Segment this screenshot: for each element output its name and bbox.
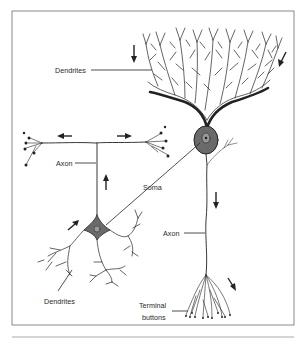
arrow-left-icon	[57, 133, 72, 139]
arrow-down-icon	[213, 192, 219, 209]
labels: Dendrites Axon Soma Axon Dendrites Termi…	[44, 66, 205, 322]
figure-frame	[12, 11, 294, 325]
arrow-right-icon	[117, 133, 132, 139]
axon-branch-horizontal	[42, 142, 146, 143]
label-axon-right: Axon	[163, 229, 179, 238]
arrow-up-icon	[103, 174, 109, 190]
label-dendrites-top: Dendrites	[55, 66, 86, 75]
terminal-arborization	[186, 275, 230, 317]
label-dendrites-bottom: Dendrites	[44, 297, 75, 306]
label-terminal-buttons-1: Terminal	[139, 301, 167, 310]
right-neuron	[143, 28, 282, 319]
dendritic-tree-top	[143, 28, 282, 120]
arrow-down-icon	[131, 45, 137, 63]
neuron-diagram: Dendrites Axon Soma Axon Dendrites Termi…	[0, 0, 307, 345]
label-terminal-buttons-2: buttons	[142, 313, 166, 322]
label-axon-left: Axon	[56, 159, 72, 168]
arrow-down-left-icon	[278, 52, 286, 67]
axon-right	[206, 154, 207, 275]
label-soma: Soma	[143, 183, 162, 192]
dendrites-left	[38, 210, 142, 286]
arrow-up-right-icon	[68, 220, 79, 230]
left-neuron	[23, 126, 170, 286]
arrow-down-right-icon	[228, 278, 236, 291]
